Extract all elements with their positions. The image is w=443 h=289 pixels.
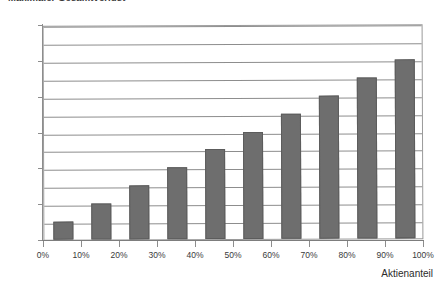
bar	[281, 113, 301, 238]
x-tick-mark	[195, 241, 196, 247]
x-tick-label: 90%	[365, 250, 405, 260]
y-tick-mark	[38, 25, 43, 26]
x-tick-mark	[119, 241, 120, 247]
x-tick-label: 10%	[61, 250, 101, 260]
y-tick-mark	[38, 168, 43, 169]
x-tick-mark	[157, 241, 158, 247]
x-tick-mark	[385, 241, 386, 247]
x-tick-mark	[233, 241, 234, 247]
x-tick-mark	[347, 241, 348, 247]
x-tick-label: 40%	[175, 250, 215, 260]
y-tick-mark	[38, 61, 43, 62]
bar	[395, 59, 415, 238]
gridline	[44, 25, 422, 27]
bar	[243, 131, 263, 239]
x-tick-label: 80%	[327, 250, 367, 260]
gridlines-group	[44, 25, 422, 26]
x-tick-mark	[423, 241, 424, 247]
gridline	[44, 61, 422, 63]
bar	[319, 95, 339, 238]
bar	[53, 222, 73, 240]
bar	[205, 149, 225, 239]
plot-area	[43, 24, 424, 240]
chart-title: Maximaler Gesamtverlust	[8, 0, 125, 3]
x-tick-mark	[309, 241, 310, 247]
x-tick-label: 20%	[99, 250, 139, 260]
x-tick-label: 70%	[289, 250, 329, 260]
x-tick-label: 100%	[403, 250, 443, 260]
x-tick-mark	[81, 241, 82, 247]
x-tick-label: 50%	[213, 250, 253, 260]
x-tick-label: 60%	[251, 250, 291, 260]
x-axis-title: Aktienanteil	[381, 268, 433, 279]
y-tick-mark	[38, 97, 43, 98]
y-tick-mark	[38, 133, 43, 134]
bar-chart-figure: Maximaler Gesamtverlust 0%10%20%30%40%50…	[0, 0, 443, 289]
x-tick-mark	[271, 241, 272, 247]
bar	[91, 204, 111, 240]
x-tick-label: 0%	[23, 250, 63, 260]
bar	[357, 77, 377, 238]
y-tick-mark	[38, 204, 43, 205]
x-tick-label: 30%	[137, 250, 177, 260]
gridline	[44, 43, 422, 45]
x-tick-mark	[43, 241, 44, 247]
bar	[167, 168, 187, 240]
bar	[129, 186, 149, 240]
